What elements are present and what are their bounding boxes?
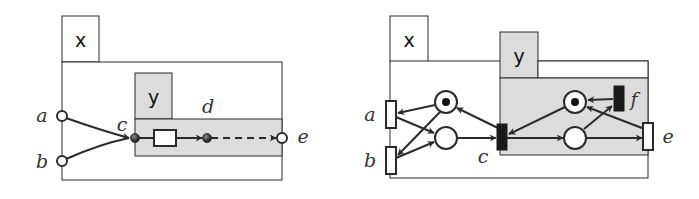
arc-f-to-pUR <box>588 99 613 100</box>
left-x-tab-label: x <box>75 29 86 51</box>
right-label-b: b <box>364 149 376 171</box>
right-y-tab-label: y <box>513 45 524 67</box>
token-upper-left <box>442 98 450 106</box>
left-transition <box>154 130 176 146</box>
left-label-e: e <box>297 125 308 147</box>
place-e <box>277 133 287 143</box>
right-label-e: e <box>662 125 673 147</box>
left-label-a: a <box>36 104 47 126</box>
transition-b <box>386 147 396 174</box>
left-label-c: c <box>117 113 128 135</box>
left-y-tab-label: y <box>148 86 159 108</box>
left-label-d: d <box>202 95 214 117</box>
transition-a <box>386 101 396 128</box>
right-x-tab-label: x <box>403 29 414 51</box>
left-label-b: b <box>36 150 48 172</box>
node-c <box>131 134 140 143</box>
diagram-canvas: x y a b c d e x <box>0 0 699 199</box>
place-lower-left <box>435 127 457 149</box>
right-label-c: c <box>478 145 489 167</box>
right-label-a: a <box>364 103 375 125</box>
transition-c <box>497 124 507 150</box>
left-diagram: x y a b c d e <box>36 16 309 180</box>
node-d <box>203 134 212 143</box>
token-upper-right <box>571 98 579 106</box>
place-lower-right <box>564 127 586 149</box>
right-diagram: x y <box>364 16 674 178</box>
place-b <box>57 156 67 166</box>
transition-f <box>614 86 624 111</box>
right-y-strip <box>538 61 648 78</box>
transition-e <box>643 123 653 150</box>
place-a <box>57 111 67 121</box>
